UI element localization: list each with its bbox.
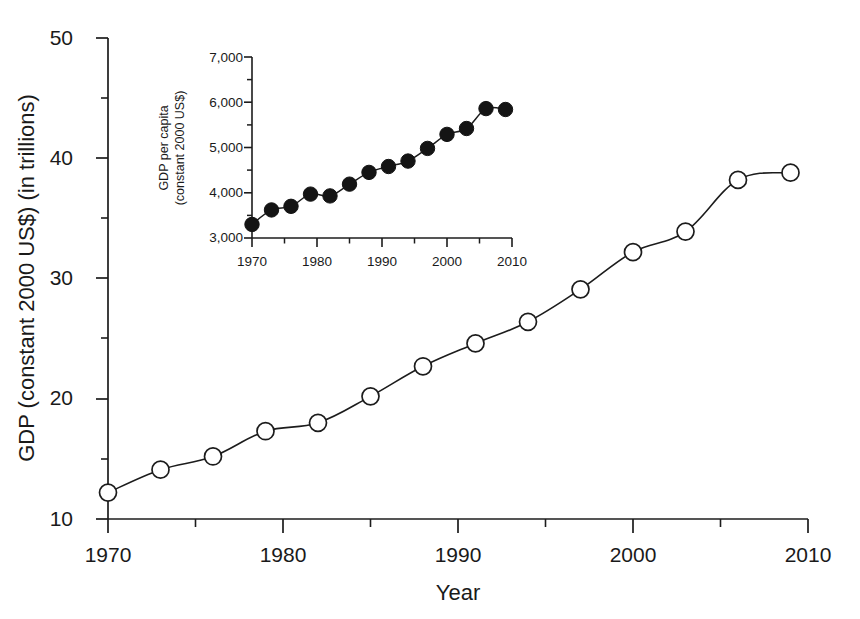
main-xtick-label-1990: 1990 [435, 543, 482, 566]
main-data-point [310, 414, 327, 431]
main-x-axis-title: Year [436, 580, 480, 605]
inset-data-point [401, 154, 415, 168]
main-ytick-label-50: 50 [50, 26, 73, 49]
inset-data-point [420, 141, 434, 155]
main-ytick-label-10: 10 [50, 507, 73, 530]
main-xtick-label-1980: 1980 [260, 543, 307, 566]
main-data-point [730, 171, 747, 188]
main-ytick-label-30: 30 [50, 266, 73, 289]
inset-ytick-label-5000: 5,000 [209, 140, 243, 155]
main-data-point [362, 388, 379, 405]
inset-data-point [381, 159, 395, 173]
inset-xtick-label-2010: 2010 [497, 254, 527, 269]
main-data-point [782, 164, 799, 181]
main-data-point [415, 358, 432, 375]
main-xtick-label-2000: 2000 [610, 543, 657, 566]
inset-data-point [323, 189, 337, 203]
inset-xtick-label-2000: 2000 [432, 254, 462, 269]
inset-ytick-label-4000: 4,000 [209, 185, 243, 200]
inset-data-point [459, 121, 473, 135]
main-data-point [152, 461, 169, 478]
inset-data-point [479, 101, 493, 115]
main-data-point [520, 313, 537, 330]
main-y-axis-title: GDP (constant 2000 US$) (in trillions) [14, 94, 39, 462]
main-data-point [625, 244, 642, 261]
inset-xtick-label-1980: 1980 [302, 254, 332, 269]
inset-data-point [342, 177, 356, 191]
main-plot: GDP (constant 2000 US$) (in trillions) 5… [14, 26, 831, 605]
figure-canvas: GDP (constant 2000 US$) (in trillions) 5… [0, 0, 860, 619]
inset-ytick-label-7000: 7,000 [209, 50, 243, 65]
main-data-point [677, 223, 694, 240]
main-data-point [205, 448, 222, 465]
inset-data-point [362, 165, 376, 179]
main-xtick-label-1970: 1970 [85, 543, 132, 566]
main-series-path [108, 173, 791, 493]
main-series-line [108, 173, 791, 493]
main-ytick-label-20: 20 [50, 386, 73, 409]
inset-xtick-label-1990: 1990 [367, 254, 397, 269]
inset-data-point [284, 199, 298, 213]
inset-ytick-label-3000: 3,000 [209, 230, 243, 245]
inset-data-point [303, 187, 317, 201]
inset-plot: GDP per capita (constant 2000 US$) 7,000… [157, 50, 527, 269]
main-data-point [467, 335, 484, 352]
inset-data-point [245, 217, 259, 231]
inset-y-axis-title-line1: GDP per capita [157, 105, 171, 190]
main-data-point [572, 281, 589, 298]
gdp-figure: GDP (constant 2000 US$) (in trillions) 5… [0, 0, 860, 619]
inset-data-point [440, 127, 454, 141]
main-series-markers [100, 164, 800, 501]
inset-data-point [498, 102, 512, 116]
main-ytick-label-40: 40 [50, 146, 73, 169]
inset-data-point [264, 203, 278, 217]
inset-ytick-label-6000: 6,000 [209, 95, 243, 110]
main-data-point [257, 423, 274, 440]
main-xtick-label-2010: 2010 [785, 543, 832, 566]
inset-series-markers [245, 101, 513, 231]
inset-y-axis-title-line2: (constant 2000 US$) [173, 91, 187, 206]
inset-xtick-label-1970: 1970 [237, 254, 267, 269]
main-data-point [100, 484, 117, 501]
